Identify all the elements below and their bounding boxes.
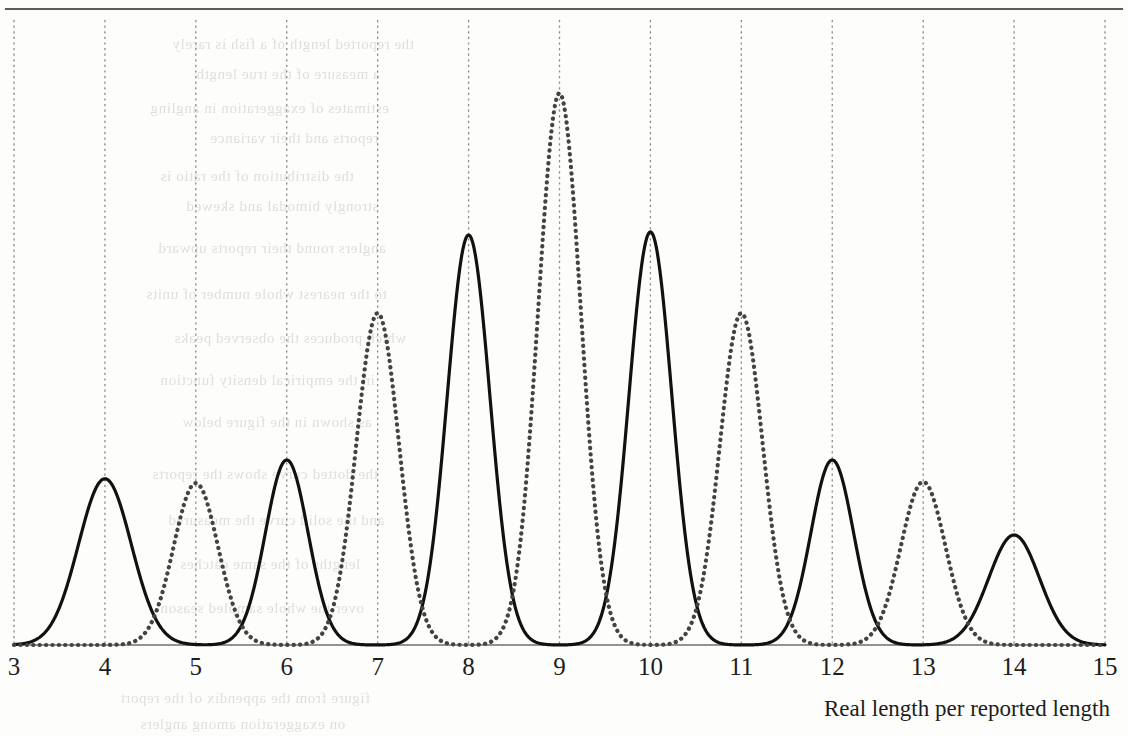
figure-page: the reported length of a fish is rarelya…: [0, 0, 1128, 736]
x-tick-label-6: 6: [281, 654, 294, 679]
x-tick-label-3: 3: [8, 654, 21, 679]
x-tick-label-9: 9: [553, 654, 566, 679]
x-tick-label-7: 7: [371, 654, 384, 679]
x-tick-label-11: 11: [729, 654, 753, 679]
x-tick-label-5: 5: [190, 654, 203, 679]
x-tick-label-4: 4: [99, 654, 112, 679]
x-tick-label-15: 15: [1093, 654, 1118, 679]
x-tick-label-14: 14: [1002, 654, 1027, 679]
x-tick-label-8: 8: [462, 654, 475, 679]
x-axis-labels: 1514131211109876543 Real length per repo…: [0, 0, 1128, 736]
x-tick-label-10: 10: [638, 654, 663, 679]
x-tick-label-12: 12: [820, 654, 845, 679]
x-axis-title: Real length per reported length: [824, 697, 1110, 720]
x-tick-label-13: 13: [911, 654, 936, 679]
